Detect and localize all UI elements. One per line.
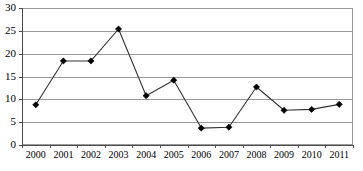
x-tick-label: 2007 bbox=[219, 149, 239, 160]
y-tick-label: 25 bbox=[5, 24, 17, 36]
series-line bbox=[36, 29, 339, 128]
data-point-marker bbox=[336, 101, 342, 107]
data-point-marker bbox=[309, 106, 315, 112]
x-tick-label: 2005 bbox=[164, 149, 184, 160]
y-tick-label: 15 bbox=[5, 70, 17, 82]
x-tick-label: 2010 bbox=[302, 149, 322, 160]
x-tick-label: 2002 bbox=[81, 149, 101, 160]
data-point-marker bbox=[33, 102, 39, 108]
y-tick-label: 30 bbox=[5, 1, 17, 13]
chart-canvas: 0510152025302000200120022003200420052006… bbox=[0, 0, 363, 171]
data-point-marker bbox=[60, 58, 66, 64]
x-tick-label: 2009 bbox=[274, 149, 294, 160]
line-chart: 0510152025302000200120022003200420052006… bbox=[0, 0, 363, 171]
series-markers bbox=[33, 26, 343, 131]
x-axis-ticks: 2000200120022003200420052006200720082009… bbox=[23, 145, 354, 160]
y-tick-label: 0 bbox=[11, 138, 17, 150]
y-tick-label: 10 bbox=[5, 92, 17, 104]
gridlines bbox=[22, 9, 353, 123]
x-tick-label: 2000 bbox=[26, 149, 46, 160]
data-point-marker bbox=[143, 93, 149, 99]
data-point-marker bbox=[226, 124, 232, 130]
y-axis-ticks: 051015202530 bbox=[5, 1, 22, 150]
y-tick-label: 5 bbox=[11, 115, 17, 127]
x-tick-label: 2001 bbox=[53, 149, 73, 160]
plot-area-border bbox=[23, 9, 353, 145]
x-tick-label: 2011 bbox=[329, 149, 349, 160]
y-tick-label: 20 bbox=[5, 47, 17, 59]
x-tick-label: 2004 bbox=[136, 149, 156, 160]
x-tick-label: 2006 bbox=[191, 149, 211, 160]
x-tick-label: 2008 bbox=[246, 149, 266, 160]
x-tick-label: 2003 bbox=[109, 149, 129, 160]
data-point-marker bbox=[198, 125, 204, 131]
